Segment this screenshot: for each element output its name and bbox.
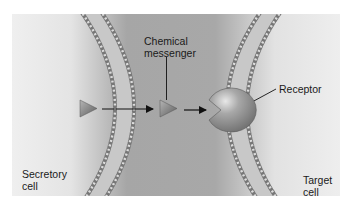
chemical-messenger-label: Chemical messenger (144, 35, 196, 59)
target-cell-label: Target cell (303, 174, 332, 198)
secretory-cell-label: Secretory cell (22, 168, 67, 192)
receptor-label: Receptor (279, 83, 322, 95)
cell-signaling-diagram: Chemical messenger Receptor Secretory ce… (0, 0, 349, 216)
